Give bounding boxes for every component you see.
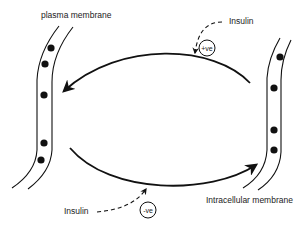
vesicle-dot (270, 146, 277, 153)
plasma-membrane-label: plasma membrane (41, 11, 111, 20)
vesicle-dot (270, 126, 277, 133)
vesicle-dot (37, 156, 44, 163)
vesicle-dot (276, 53, 283, 60)
insulin-inhibition-dashed-arrow (97, 189, 146, 212)
vesicle-dot (40, 91, 47, 98)
internalization-arrow-bottom (70, 148, 256, 186)
negative-effect-badge: -ve (140, 202, 156, 218)
negative-effect-label: -ve (143, 207, 153, 214)
vesicle-dot (40, 139, 47, 146)
diagram-canvas: +ve -ve (0, 0, 307, 225)
vesicle-dot (41, 60, 48, 67)
positive-effect-badge: +ve (199, 40, 215, 56)
vesicle-dot (270, 84, 277, 91)
intracellular-membrane-outer-line (243, 38, 280, 188)
vesicle-dot (47, 44, 54, 51)
insulin-top-label: Insulin (229, 17, 254, 26)
plasma-membrane (12, 26, 73, 189)
intracellular-membrane-label: Intracellular membrane (206, 196, 293, 205)
intracellular-membrane (243, 38, 291, 190)
translocation-arrow-top (64, 54, 250, 91)
insulin-bottom-label: Insulin (64, 207, 89, 216)
positive-effect-label: +ve (201, 45, 213, 52)
